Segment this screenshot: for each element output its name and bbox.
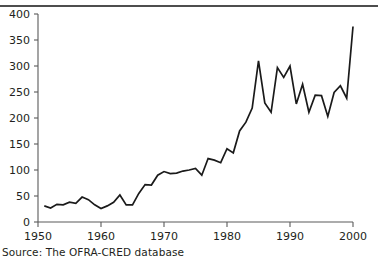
line-chart: 050100150200250300350400 195019601970198… [0, 0, 378, 240]
y-tick-label: 250 [9, 86, 30, 99]
x-tick-label: 1970 [150, 230, 178, 240]
y-tick-label: 200 [9, 112, 30, 125]
y-tick-label: 350 [9, 34, 30, 47]
y-axis: 050100150200250300350400 [9, 8, 38, 229]
y-tick-label: 0 [23, 216, 30, 229]
x-tick-label: 1990 [276, 230, 304, 240]
x-tick-label: 1960 [87, 230, 115, 240]
source-caption: Source: The OFRA-CRED database [2, 246, 184, 258]
y-tick-label: 150 [9, 138, 30, 151]
y-tick-label: 400 [9, 8, 30, 21]
chart-plot-area: 050100150200250300350400 195019601970198… [0, 0, 378, 240]
y-tick-label: 100 [9, 164, 30, 177]
x-tick-label: 1950 [24, 230, 52, 240]
figure: 050100150200250300350400 195019601970198… [0, 0, 378, 265]
x-axis: 195019601970198019902000 [24, 222, 367, 240]
x-tick-label: 1980 [213, 230, 241, 240]
y-tick-label: 300 [9, 60, 30, 73]
data-series-line [44, 26, 353, 208]
y-tick-label: 50 [16, 190, 30, 203]
x-tick-label: 2000 [339, 230, 367, 240]
